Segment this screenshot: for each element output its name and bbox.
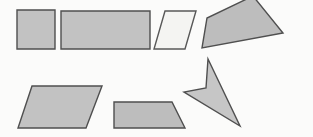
shape-square-top-left: [17, 10, 55, 49]
shape-trapezoid-bottom-center: [114, 102, 185, 128]
shapes-figure: [0, 0, 313, 137]
shapes-canvas: [0, 0, 313, 137]
shape-rectangle-top: [61, 11, 150, 49]
